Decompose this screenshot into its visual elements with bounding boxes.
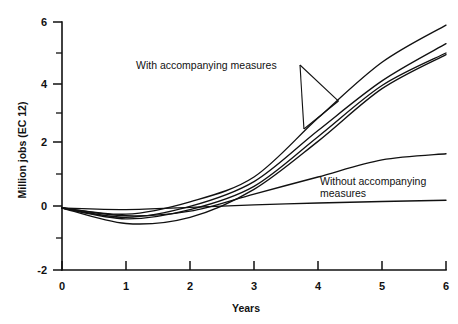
y-tick-label-6: 6 (41, 16, 47, 28)
x-tick-label-0: 0 (59, 280, 65, 292)
x-tick-label-4: 4 (315, 280, 322, 292)
y-tick-label-0: 0 (41, 200, 47, 212)
employment-line-chart: 6 4 0 2 -2 0 1 2 3 4 5 6 Years Million j… (0, 0, 458, 324)
x-tick-label-2: 2 (187, 280, 193, 292)
chart-figure: 6 4 0 2 -2 0 1 2 3 4 5 6 Years Million j… (0, 0, 458, 324)
x-tick-label-6: 6 (443, 280, 449, 292)
chart-background (0, 0, 458, 324)
y-tick-label-4: 4 (41, 78, 48, 90)
annotation-without-measures-line2: measures (320, 187, 366, 199)
x-tick-label-3: 3 (251, 280, 257, 292)
x-tick-label-5: 5 (379, 280, 385, 292)
x-tick-label-1: 1 (123, 280, 129, 292)
y-tick-label-2: 2 (41, 136, 47, 148)
x-axis-title: Years (232, 302, 260, 314)
annotation-without-measures-line1: Without accompanying (320, 175, 426, 187)
y-axis-title: Million jobs (EC 12) (16, 102, 28, 199)
y-tick-label-minus2: -2 (37, 264, 47, 276)
annotation-with-measures-label: With accompanying measures (136, 59, 277, 71)
